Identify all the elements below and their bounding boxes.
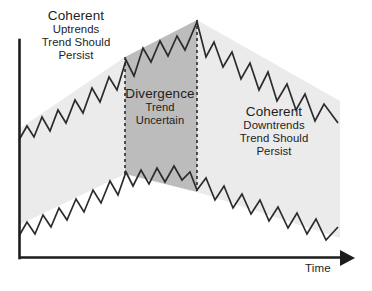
x-axis-arrow-icon [340,250,355,266]
trend-coherence-figure: Coherent Uptrends Trend Should Persist D… [0,0,372,291]
uptrend-zone-fill [19,57,125,225]
chart-canvas [0,0,372,291]
x-axis-label: Time [305,262,331,274]
figure-caption-clipped [0,281,372,291]
